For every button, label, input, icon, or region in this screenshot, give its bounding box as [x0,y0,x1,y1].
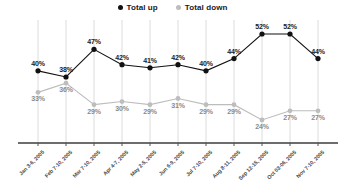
gridlines [38,20,318,143]
value-label-down-0: 33% [31,95,45,102]
value-label-down-4: 29% [143,108,157,115]
value-label-down-9: 27% [283,114,297,121]
value-label-down-1: 36% [59,86,73,93]
value-label-down-7: 29% [227,108,241,115]
value-label-up-0: 40% [31,60,45,67]
value-label-down-6: 29% [199,108,213,115]
value-label-up-7: 44% [227,48,241,55]
value-label-up-10: 44% [311,48,325,55]
value-label-up-8: 52% [255,23,269,30]
value-label-up-9: 52% [283,23,297,30]
value-label-up-6: 40% [199,60,213,67]
value-label-down-5: 31% [171,102,185,109]
plot-area: 40%38%47%42%41%42%40%44%52%52%44%33%36%2… [0,0,345,194]
value-label-up-5: 42% [171,54,185,61]
value-label-up-2: 47% [87,38,101,45]
value-label-down-2: 29% [87,108,101,115]
value-label-up-3: 42% [115,54,129,61]
value-label-down-10: 27% [311,114,325,121]
value-label-down-8: 24% [255,123,269,130]
value-label-up-4: 41% [143,57,157,64]
value-label-up-1: 38% [59,66,73,73]
value-label-down-3: 30% [115,105,129,112]
line-chart: Total up Total down 40%38%47%42%41%42%40… [0,0,345,194]
